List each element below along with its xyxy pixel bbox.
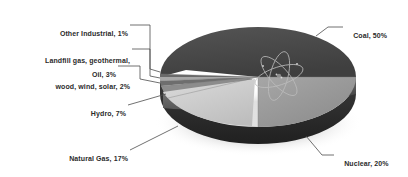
slice-label-natural-gas-text: Natural Gas, 17%: [69, 155, 128, 162]
slice-label-natural-gas: Natural Gas, 17%: [46, 146, 128, 172]
leader-coal: [316, 27, 343, 36]
slice-top-coal: [160, 27, 356, 77]
slice-label-oil-text: Oil, 3%: [92, 71, 116, 78]
pie-chart-figure: Other Industrial, 1% Landfill gas, geoth…: [0, 0, 408, 177]
slice-label-hydro-text: Hydro, 7%: [91, 110, 126, 117]
leader-hydro: [128, 94, 166, 105]
leader-landfill-renewables: [132, 49, 160, 78]
slice-label-other-industrial-text: Other Industrial, 1%: [60, 30, 128, 37]
slice-label-oil: Oil, 3%: [60, 62, 116, 88]
slice-label-coal-text: Coal, 50%: [353, 32, 387, 39]
slice-label-nuclear: Nuclear, 20%: [336, 151, 404, 177]
slice-label-coal: Coal, 50%: [345, 23, 405, 49]
leader-other-industrial: [130, 25, 160, 72]
slice-label-nuclear-text: Nuclear, 20%: [344, 160, 388, 167]
slice-label-hydro: Hydro, 7%: [62, 101, 126, 127]
